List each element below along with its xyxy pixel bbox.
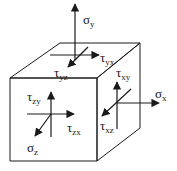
label-sigma-x: σx bbox=[155, 86, 167, 103]
cube-front-face bbox=[10, 78, 97, 161]
label-tau-zx: τzx bbox=[67, 120, 81, 137]
label-tau-yx: τyx bbox=[100, 50, 115, 67]
stress-element-diagram: σy τyx τyz τzy τzx σz τxy σx τxz bbox=[0, 0, 177, 171]
tau-yz-arrow bbox=[68, 47, 88, 67]
label-tau-zy: τzy bbox=[27, 89, 41, 106]
label-tau-xz: τxz bbox=[100, 118, 114, 135]
label-tau-yz: τyz bbox=[54, 65, 68, 82]
label-sigma-y: σy bbox=[83, 12, 95, 29]
label-tau-xy: τxy bbox=[116, 65, 131, 82]
label-sigma-z: σz bbox=[27, 140, 38, 157]
right-face-arrows bbox=[102, 82, 159, 129]
sigma-z-arrow bbox=[35, 114, 51, 136]
top-face-arrows bbox=[50, 4, 99, 67]
